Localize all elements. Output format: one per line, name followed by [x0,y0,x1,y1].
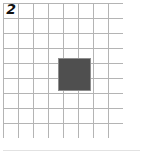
item-number-label: 2 [4,1,18,17]
grid-puzzle-figure: 2 [0,0,143,156]
filled-square-shape [58,58,91,91]
bottom-separator-rule [3,150,140,151]
